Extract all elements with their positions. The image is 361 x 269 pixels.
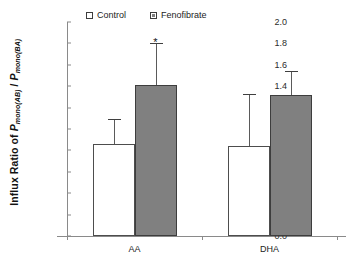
error-bar-stem	[156, 43, 157, 85]
x-axis-tick-mark	[202, 236, 203, 240]
plot-area: *	[67, 22, 337, 236]
y-axis-title-prefix: Influx Ratio of	[9, 132, 21, 207]
bar-aa-fenofibrate	[135, 85, 177, 236]
legend-swatch-open-square-icon	[86, 12, 93, 19]
bar-aa-control	[93, 144, 135, 236]
y-axis-title-p2: P	[9, 74, 21, 81]
legend-item-fenofibrate: Fenofibrate	[150, 10, 207, 20]
error-bar-stem	[249, 94, 250, 146]
y-axis-title-p2-subscript: mono(BA)	[15, 39, 22, 74]
legend-swatch-filled-square-icon	[150, 12, 157, 19]
legend-label-fenofibrate: Fenofibrate	[161, 10, 207, 20]
y-axis-title-p1: P	[9, 124, 21, 131]
x-axis-category-label: DHA	[260, 244, 279, 254]
error-bar-cap	[108, 119, 121, 120]
error-bar-cap	[243, 94, 256, 95]
x-axis-category-label: AA	[128, 244, 140, 254]
y-axis-title-text: Influx Ratio of Pmono(AB) / Pmono(BA)	[10, 39, 21, 206]
y-axis-title: Influx Ratio of Pmono(AB) / Pmono(BA)	[0, 0, 30, 245]
chart-figure: Influx Ratio of Pmono(AB) / Pmono(BA) Co…	[0, 0, 361, 269]
error-bar-cap	[285, 71, 298, 72]
legend-label-control: Control	[97, 10, 126, 20]
legend-item-control: Control	[86, 10, 126, 20]
significance-marker: *	[153, 37, 157, 48]
chart-legend: Control Fenofibrate	[86, 10, 207, 20]
x-axis-tick-mark	[67, 236, 68, 240]
y-axis-title-separator: /	[9, 81, 21, 90]
bar-dha-control	[228, 146, 270, 236]
error-bar-stem	[291, 71, 292, 95]
error-bar-stem	[114, 119, 115, 144]
x-axis-tick-mark	[337, 236, 338, 240]
y-axis-title-p1-subscript: mono(AB)	[15, 90, 22, 125]
bar-dha-fenofibrate	[270, 95, 312, 236]
